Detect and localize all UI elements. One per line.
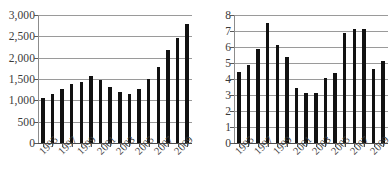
chart-left: 05001,0001,5002,0002,5003,000 1995199719…: [0, 0, 196, 186]
bar: [137, 89, 140, 143]
plot-area-right: [234, 15, 388, 143]
bar: [247, 65, 250, 143]
bar: [285, 57, 288, 143]
bar: [343, 33, 346, 143]
bar: [266, 23, 269, 143]
bar: [41, 98, 44, 143]
bar: [256, 49, 259, 143]
bar: [295, 88, 298, 143]
bar: [314, 93, 317, 143]
bar: [185, 24, 188, 143]
bar: [176, 38, 179, 143]
bar: [353, 29, 356, 143]
bar: [166, 50, 169, 143]
bar: [80, 82, 83, 143]
bar: [362, 29, 365, 143]
gridline: [38, 36, 192, 37]
bar: [372, 69, 375, 143]
figure-container: 05001,0001,5002,0002,5003,000 1995199719…: [0, 0, 392, 186]
y-axis-tick-label: 2,000: [9, 52, 35, 64]
gridline: [38, 15, 192, 16]
gridline: [234, 15, 388, 16]
bar: [157, 67, 160, 143]
chart-panel-right: 012345678 199519971999200120032005200720…: [196, 0, 392, 186]
plot-area-left: [38, 15, 192, 143]
bar: [99, 80, 102, 143]
bar: [60, 89, 63, 143]
y-axis-tick-label: 1,000: [9, 94, 35, 106]
y-axis-tick-label: 1,500: [9, 73, 35, 85]
y-axis-line: [234, 15, 235, 143]
y-axis-line: [38, 15, 39, 143]
bar: [118, 92, 121, 143]
bar: [381, 61, 384, 143]
bar: [276, 45, 279, 143]
chart-panel-left: 05001,0001,5002,0002,5003,000 1995199719…: [0, 0, 196, 186]
chart-right: 012345678 199519971999200120032005200720…: [196, 0, 392, 186]
y-axis-tick-label: 2,500: [9, 30, 35, 42]
y-axis-tick-label: 3,000: [9, 9, 35, 21]
bar: [237, 72, 240, 143]
bar: [333, 73, 336, 143]
y-axis-tick-label: 500: [17, 116, 35, 128]
y-axis-labels-right: 012345678: [196, 0, 231, 186]
y-axis-labels-left: 05001,0001,5002,0002,5003,000: [0, 0, 35, 186]
